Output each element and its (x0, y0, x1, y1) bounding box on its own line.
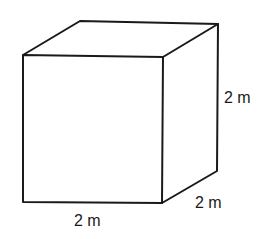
height-label: 2 m (224, 89, 251, 106)
cube-diagram: 2 m 2 m 2 m (0, 0, 273, 239)
cube-front-face (23, 55, 163, 203)
depth-label: 2 m (195, 194, 222, 211)
cube (23, 21, 218, 203)
cube-right-face (162, 24, 218, 203)
cube-top-face (23, 21, 218, 57)
width-label: 2 m (74, 212, 101, 229)
